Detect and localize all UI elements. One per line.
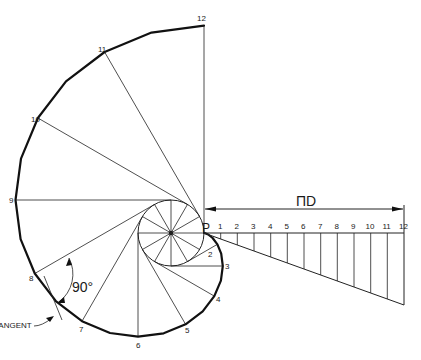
division-label-1: 1 (218, 222, 223, 231)
arrowhead-left-icon (205, 207, 216, 212)
involute-label-12: 12 (197, 14, 206, 23)
unrolled-circumference: 1 2 3 4 5 6 7 8 9 10 11 12 (204, 205, 408, 305)
tangent-line (44, 276, 62, 320)
division-lines (221, 233, 388, 299)
division-label-10: 10 (366, 222, 375, 231)
involute-label-8: 8 (29, 274, 34, 283)
angle-label: 90° (72, 279, 93, 295)
involute-diagram: 2 3 4 5 6 7 8 9 10 11 12 P 1 (0, 0, 421, 360)
dimension-pi-d: ΠD (205, 193, 403, 212)
division-label-6: 6 (301, 222, 306, 231)
involute-label-9: 9 (9, 196, 14, 205)
involute-label-4: 4 (216, 295, 221, 304)
involute-point-labels: 2 3 4 5 6 7 8 9 10 11 12 (9, 14, 230, 350)
division-label-2: 2 (235, 222, 240, 231)
division-label-5: 5 (285, 222, 290, 231)
division-labels: 1 2 3 4 5 6 7 8 9 10 11 12 (218, 222, 408, 231)
dimension-label: ΠD (296, 193, 316, 209)
involute-label-11: 11 (98, 45, 107, 54)
arrowhead-right-icon (392, 207, 403, 212)
arrowhead-down-icon (57, 297, 65, 303)
division-label-7: 7 (318, 222, 323, 231)
division-label-9: 9 (351, 222, 356, 231)
division-label-11: 11 (383, 222, 392, 231)
involute-label-3: 3 (225, 262, 230, 271)
tangent-label: TANGENT (0, 321, 32, 330)
involute-label-2: 2 (208, 250, 213, 259)
involute-label-5: 5 (185, 326, 190, 335)
division-label-12: 12 (399, 222, 408, 231)
involute-label-10: 10 (31, 115, 40, 124)
division-label-4: 4 (268, 222, 273, 231)
division-label-8: 8 (335, 222, 340, 231)
involute-label-6: 6 (136, 341, 141, 350)
involute-curve (16, 26, 223, 337)
involute-label-7: 7 (79, 325, 84, 334)
division-label-3: 3 (251, 222, 256, 231)
